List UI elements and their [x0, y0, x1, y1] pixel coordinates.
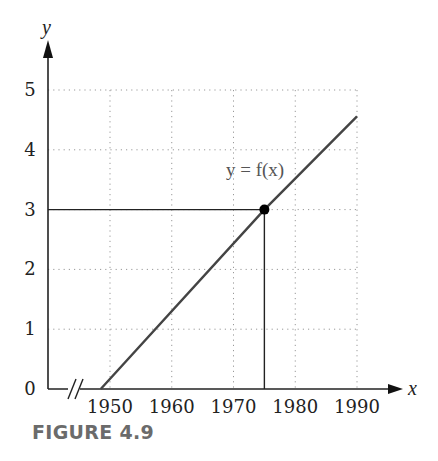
figure-caption: FIGURE 4.9 — [32, 421, 154, 443]
x-tick-label: 1990 — [334, 396, 380, 417]
y-tick-label: 0 — [24, 378, 35, 399]
y-tick-label: 5 — [24, 79, 35, 100]
x-tick-label: 1960 — [149, 396, 195, 417]
y-tick-label: 4 — [24, 139, 35, 160]
chart: yx01234519501960197019801990y = f(x) — [0, 0, 438, 461]
x-tick-label: 1950 — [87, 396, 133, 417]
y-tick-label: 3 — [24, 199, 35, 220]
x-tick-label: 1980 — [272, 396, 318, 417]
y-axis-arrow-icon — [43, 40, 53, 58]
function-line — [101, 116, 357, 389]
y-tick-label: 2 — [24, 258, 35, 279]
highlighted-point — [259, 205, 269, 215]
x-axis-arrow-icon — [388, 384, 403, 394]
y-axis-label: y — [40, 16, 51, 39]
curve-label: y = f(x) — [226, 159, 284, 181]
x-axis-label: x — [407, 377, 417, 399]
y-tick-label: 1 — [24, 318, 35, 339]
x-tick-label: 1970 — [211, 396, 257, 417]
